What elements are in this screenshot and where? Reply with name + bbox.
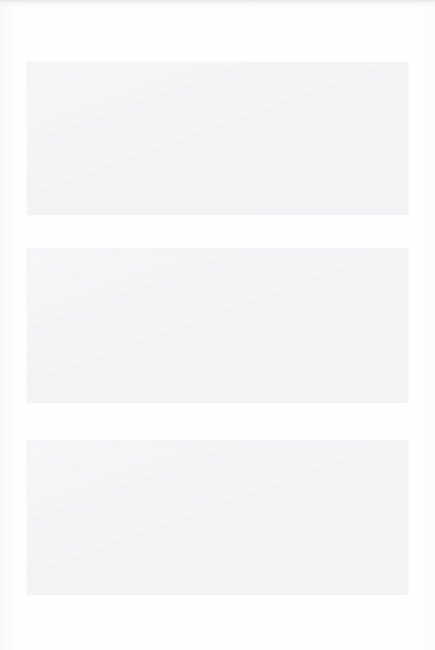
panel-1-sheen bbox=[28, 63, 407, 214]
panel-3-texture bbox=[28, 441, 407, 594]
panel-gap-1 bbox=[27, 215, 408, 248]
panel-3-sheen bbox=[28, 441, 407, 594]
content-panel-1[interactable] bbox=[27, 62, 408, 215]
panel-1-texture bbox=[28, 63, 407, 214]
panel-2-sheen bbox=[28, 249, 407, 402]
content-panel-2[interactable] bbox=[27, 248, 408, 403]
panel-gap-2 bbox=[27, 403, 408, 440]
panel-stack bbox=[0, 0, 435, 650]
panel-2-texture bbox=[28, 249, 407, 402]
footer-margin bbox=[0, 595, 435, 650]
content-panel-3[interactable] bbox=[27, 440, 408, 595]
document-page bbox=[0, 0, 435, 650]
